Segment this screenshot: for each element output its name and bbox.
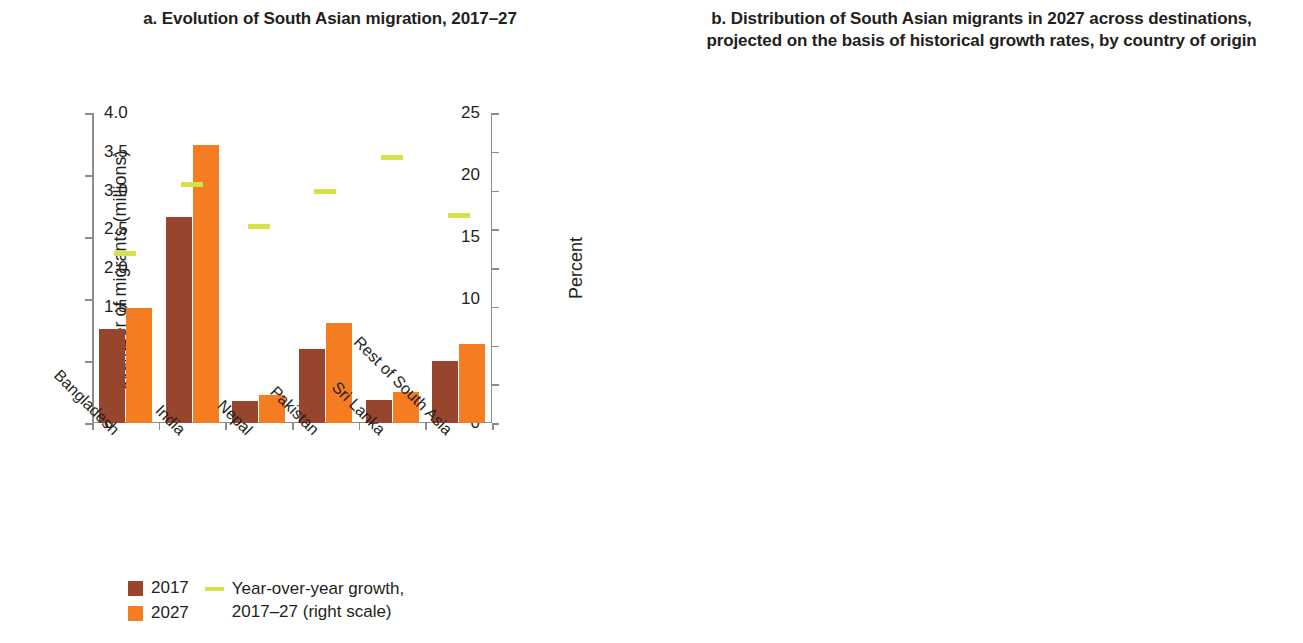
axis-tick [85,299,92,301]
bar-group [292,113,359,423]
growth-marker[interactable] [248,224,270,229]
legend-item-2017[interactable]: 2017 [128,578,189,598]
bar-pair [425,113,492,423]
bar-pair [159,113,226,423]
legend-swatch-2017 [128,581,143,596]
axis-tick [492,307,499,309]
bar-pair [292,113,359,423]
bar-group [92,113,159,423]
legend-item-2027[interactable]: 2027 [128,603,189,623]
growth-marker[interactable] [114,251,136,256]
bar-group [159,113,226,423]
growth-marker[interactable] [181,182,203,187]
bar-pair [225,113,292,423]
axis-tick [492,191,499,193]
axis-tick [492,113,499,115]
axis-tick [492,384,499,386]
axis-tick [85,175,92,177]
legend-label-growth-line2: 2017–27 (right scale) [232,601,392,622]
bar-2027[interactable] [126,308,152,423]
panel-a-y-axis-right-title: Percent [566,158,587,378]
legend-swatch-growth-line [205,587,224,591]
growth-marker[interactable] [314,189,336,194]
panel-a-legend: 2017 2027 Year-over-year growth, 2017–27… [128,578,404,623]
bar-group [425,113,492,423]
legend-item-growth[interactable]: Year-over-year growth, [205,578,404,599]
growth-marker[interactable] [448,213,470,218]
legend-swatch-2027 [128,606,143,621]
legend-label-growth-line1: Year-over-year growth, [232,578,404,599]
bar-2027[interactable] [459,344,485,423]
growth-marker[interactable] [381,155,403,160]
panel-a-bar-groups [92,113,492,423]
axis-tick [85,237,92,239]
axis-tick [492,229,499,231]
panel-b: b. Distribution of South Asian migrants … [660,0,1303,643]
bar-group [225,113,292,423]
axis-tick [85,113,92,115]
axis-tick [492,268,499,270]
legend-label-2027: 2027 [151,603,189,623]
axis-tick [85,361,92,363]
panel-a-y-axis-right-title-wrap: Percent [566,113,590,423]
legend-item-growth-line2: 2017–27 (right scale) [205,601,404,622]
bar-pair [92,113,159,423]
figure-container: a. Evolution of South Asian migration, 2… [0,0,1303,643]
axis-tick [85,423,92,425]
panel-b-title: b. Distribution of South Asian migrants … [660,8,1303,52]
axis-tick [492,152,499,154]
bar-2027[interactable] [193,145,219,423]
legend-label-2017: 2017 [151,578,189,598]
panel-a-title: a. Evolution of South Asian migration, 2… [0,8,660,30]
axis-tick-x [492,423,494,430]
axis-tick [492,346,499,348]
panel-a-legend-series: 2017 2027 [128,578,189,623]
panel-a-x-labels: BangladeshIndiaNepalPakistanSri LankaRes… [92,423,492,533]
bar-2017[interactable] [166,217,192,423]
panel-a: a. Evolution of South Asian migration, 2… [0,0,660,643]
panel-a-plot: Number of migrants (millions) Percent 25… [92,113,492,423]
panel-a-legend-growth[interactable]: Year-over-year growth, 2017–27 (right sc… [205,578,404,623]
